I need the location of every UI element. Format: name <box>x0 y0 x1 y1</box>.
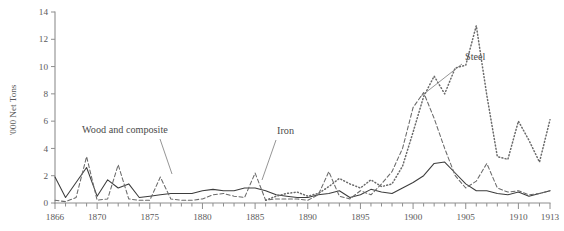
x-tick-label: 1913 <box>541 212 560 222</box>
y-tick-label: 14 <box>39 7 49 17</box>
y-axis: 02468101214 <box>39 7 55 208</box>
chart-figure: 02468101214 1866187018751880188518901895… <box>0 0 564 231</box>
x-axis: 1866187018751880188518901895190019051910… <box>46 203 560 222</box>
series-wood-and-composite <box>55 162 550 197</box>
shipbuilding-tonnage-chart: 02468101214 1866187018751880188518901895… <box>0 0 564 231</box>
x-tick-label: 1870 <box>88 212 107 222</box>
y-tick-label: 10 <box>39 62 49 72</box>
leader-line-steel <box>420 64 462 97</box>
y-tick-label: 0 <box>43 198 48 208</box>
series-label-wood-and-composite: Wood and composite <box>82 124 168 135</box>
series-steel <box>266 26 550 201</box>
x-tick-label: 1910 <box>509 212 528 222</box>
y-tick-label: 12 <box>39 34 49 44</box>
annotation-layer: Wood and compositeIronSteel <box>82 51 486 180</box>
x-tick-label: 1866 <box>46 212 65 222</box>
x-tick-label: 1885 <box>246 212 265 222</box>
y-tick-label: 2 <box>43 171 48 181</box>
y-axis-title: '000 Net Tons <box>8 84 18 135</box>
x-tick-label: 1890 <box>299 212 318 222</box>
x-tick-label: 1875 <box>141 212 160 222</box>
x-tick-label: 1895 <box>351 212 370 222</box>
x-tick-label: 1880 <box>193 212 212 222</box>
leader-line-wood-and-composite <box>160 139 172 174</box>
series-label-steel: Steel <box>465 51 486 62</box>
leader-line-iron <box>262 140 276 180</box>
y-tick-label: 4 <box>43 144 48 154</box>
series-label-iron: Iron <box>277 125 294 136</box>
y-tick-label: 8 <box>43 89 48 99</box>
x-tick-label: 1905 <box>457 212 476 222</box>
y-tick-label: 6 <box>43 116 48 126</box>
x-tick-label: 1900 <box>404 212 423 222</box>
